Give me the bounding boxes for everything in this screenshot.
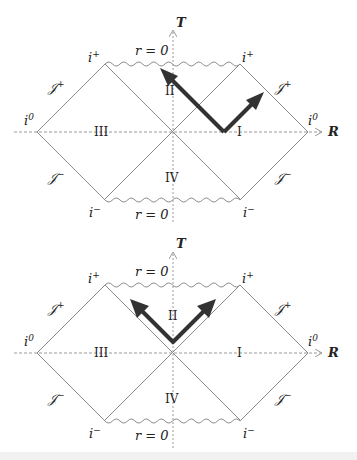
region-i: I [237, 347, 242, 359]
superscript: 0 [28, 112, 34, 122]
superscript: 0 [28, 333, 34, 343]
superscript: − [284, 390, 292, 400]
superscript: − [247, 425, 255, 435]
scri-plus-left: 𝒥+ [48, 301, 65, 315]
region-ii: II [168, 310, 177, 322]
scri-minus-right: 𝒥− [275, 170, 292, 184]
t-axis-label: T [176, 16, 186, 29]
i-plus-left: i+ [88, 271, 100, 285]
region-iii: III [94, 347, 108, 359]
superscript: − [57, 169, 65, 179]
i-minus-left: i− [89, 205, 101, 219]
superscript: + [284, 79, 292, 89]
scri-minus-right: 𝒥− [275, 391, 292, 405]
scri-minus-left: 𝒥− [48, 170, 65, 184]
region-iv: IV [165, 393, 178, 405]
superscript: + [57, 300, 65, 310]
scri-minus-left: 𝒥− [48, 391, 65, 405]
scri-symbol: 𝒥 [48, 391, 57, 406]
bottom-diagram [14, 252, 322, 448]
region-ii: II [165, 85, 174, 97]
superscript: − [57, 390, 65, 400]
scri-plus-left: 𝒥+ [48, 80, 65, 94]
scri-symbol: 𝒥 [275, 170, 284, 185]
superscript: − [247, 204, 255, 214]
scri-symbol: 𝒥 [48, 80, 57, 95]
superscript: + [246, 49, 254, 59]
superscript: + [92, 270, 100, 280]
superscript: + [246, 270, 254, 280]
singularity-label-bottom: r = 0 [135, 208, 169, 221]
scri-plus-right: 𝒥+ [275, 80, 292, 94]
superscript: + [284, 300, 292, 310]
page-edge [0, 452, 357, 460]
superscript: − [284, 169, 292, 179]
scri-symbol: 𝒥 [48, 170, 57, 185]
i-minus-left: i− [89, 426, 101, 440]
superscript: 0 [312, 112, 318, 122]
i-minus-right: i− [243, 205, 255, 219]
singularity-label-bottom: r = 0 [135, 429, 169, 442]
superscript: + [92, 49, 100, 59]
t-axis-label: T [176, 237, 186, 250]
region-i: I [237, 126, 242, 138]
scri-symbol: 𝒥 [275, 80, 284, 95]
superscript: + [57, 79, 65, 89]
i-zero-right: i0 [308, 113, 318, 127]
ingoing-ray [168, 76, 224, 132]
i-plus-right: i+ [242, 271, 254, 285]
scri-symbol: 𝒥 [275, 391, 284, 406]
superscript: − [93, 425, 101, 435]
i-zero-right: i0 [308, 334, 318, 348]
r-axis-label: R [328, 125, 339, 138]
region-iii: III [94, 126, 108, 138]
i-zero-left: i0 [24, 334, 34, 348]
superscript: 0 [312, 333, 318, 343]
singularity-label-top: r = 0 [135, 265, 169, 278]
scri-plus-right: 𝒥+ [275, 301, 292, 315]
superscript: − [93, 204, 101, 214]
i-plus-right: i+ [242, 50, 254, 64]
i-plus-left: i+ [88, 50, 100, 64]
i-zero-left: i0 [24, 113, 34, 127]
r-axis-label: R [328, 346, 339, 359]
i-minus-right: i− [243, 426, 255, 440]
top-diagram [14, 30, 322, 222]
light-ray-arrows [160, 68, 264, 132]
singularity-label-top: r = 0 [135, 44, 169, 57]
scri-symbol: 𝒥 [275, 301, 284, 316]
scri-symbol: 𝒥 [48, 301, 57, 316]
region-iv: IV [165, 172, 178, 184]
